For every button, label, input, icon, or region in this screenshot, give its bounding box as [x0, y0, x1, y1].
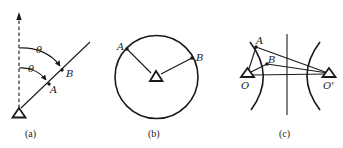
- hyperbola-right-branch: [307, 42, 320, 110]
- theta-label-upper: θ: [36, 44, 42, 55]
- station-triangle-icon: [13, 108, 26, 118]
- station-o-prime-label: O': [323, 80, 334, 91]
- radius-to-b: [161, 58, 192, 74]
- figure-canvas: θ θ B A (a) A B (b) A: [0, 0, 343, 148]
- radius-to-a: [127, 49, 151, 73]
- point-b-marker: [190, 56, 193, 59]
- line-a-to-o-prime: [256, 47, 328, 73]
- north-arrow-icon: [16, 12, 21, 20]
- theta-label-lower: θ: [28, 63, 34, 74]
- point-a-label: A: [116, 41, 124, 52]
- line-b-to-o-prime: [267, 64, 328, 73]
- line-o-to-a: [248, 47, 256, 72]
- bearing-ray: [21, 42, 90, 108]
- point-b-marker: [60, 68, 63, 71]
- panel-c-caption: (c): [279, 128, 290, 140]
- panel-b: A B (b): [115, 36, 203, 141]
- point-a-label: A: [255, 35, 263, 46]
- point-a-marker: [125, 47, 128, 50]
- point-b-label: B: [267, 54, 275, 65]
- point-b-label: B: [65, 68, 73, 79]
- station-o-triangle-icon: [241, 68, 254, 77]
- point-a-label: A: [49, 84, 57, 95]
- point-b-label: B: [195, 52, 203, 63]
- station-o-label: O: [241, 80, 249, 91]
- panel-a: θ θ B A (a): [13, 12, 91, 140]
- station-triangle-icon: [150, 71, 163, 81]
- panel-a-caption: (a): [25, 128, 36, 140]
- line-o-to-b: [249, 64, 267, 73]
- panel-c: A B O O' (c): [241, 34, 336, 140]
- panel-b-caption: (b): [148, 128, 160, 140]
